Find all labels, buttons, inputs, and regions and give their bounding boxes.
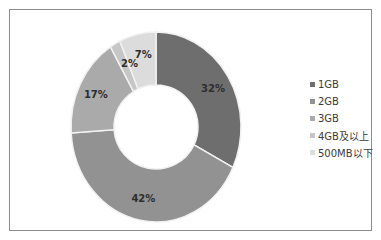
legend-item-3gb: 3GB <box>310 110 373 127</box>
legend-swatch-icon <box>310 82 315 87</box>
slice-label: 32% <box>201 83 225 94</box>
legend-item-1gb: 1GB <box>310 76 373 93</box>
slice-label: 17% <box>84 89 108 100</box>
legend-swatch-icon <box>310 150 315 155</box>
legend-swatch-icon <box>310 133 315 138</box>
legend-swatch-icon <box>310 116 315 121</box>
legend-swatch-icon <box>310 99 315 104</box>
legend-item-4gb-plus: 4GB及以上 <box>310 127 373 144</box>
legend-label: 4GB及以上 <box>318 128 369 143</box>
legend-label: 2GB <box>318 96 339 107</box>
legend-item-500mb-below: 500MB以下 <box>310 144 373 161</box>
legend-label: 500MB以下 <box>318 145 373 160</box>
slice-label: 7% <box>135 49 152 60</box>
legend: 1GB 2GB 3GB 4GB及以上 500MB以下 <box>310 76 373 161</box>
donut-slices <box>71 32 241 222</box>
slice-label: 42% <box>131 193 155 204</box>
legend-label: 3GB <box>318 113 339 124</box>
legend-label: 1GB <box>318 79 339 90</box>
legend-item-2gb: 2GB <box>310 93 373 110</box>
